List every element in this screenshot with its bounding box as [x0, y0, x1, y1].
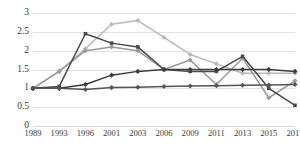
x-axis-tick-label: 2013 — [234, 129, 251, 138]
line-chart: 00.511.522.53 19891993199620012003200620… — [0, 0, 300, 147]
y-axis-tick-label: 1.5 — [17, 65, 29, 75]
data-point-marker — [135, 69, 140, 74]
plot-area — [33, 13, 295, 126]
data-point-marker — [109, 73, 114, 78]
y-axis-tick-label: 0.5 — [17, 102, 29, 112]
data-point-marker — [161, 84, 166, 89]
x-axis-tick-label: 2015 — [260, 129, 277, 138]
x-axis-tick-label: 2011 — [208, 129, 225, 138]
x-axis: 1989199319962001200320062009201120132015… — [33, 129, 295, 145]
data-point-marker — [241, 55, 245, 59]
x-axis-tick-label: 2003 — [129, 129, 146, 138]
data-point-marker — [110, 41, 114, 45]
x-axis-tick-label: 2001 — [103, 129, 120, 138]
x-axis-tick-label: 2017 — [286, 129, 300, 138]
data-point-marker — [83, 82, 88, 87]
y-axis-tick-label: 2.5 — [17, 27, 29, 37]
data-point-marker — [240, 67, 245, 72]
data-point-marker — [188, 84, 193, 89]
series-series-medium-gray — [30, 44, 297, 100]
data-point-marker — [266, 67, 271, 72]
x-axis-tick-label: 1993 — [51, 129, 68, 138]
data-point-marker — [240, 83, 245, 88]
y-axis-tick-label: 1 — [24, 83, 29, 93]
data-point-marker — [109, 85, 114, 90]
y-axis-tick-label: 3 — [24, 8, 29, 18]
data-point-marker — [84, 32, 88, 36]
data-point-marker — [136, 45, 140, 49]
data-point-marker — [293, 103, 297, 107]
series-layer — [33, 13, 295, 126]
x-axis-tick-label: 1989 — [24, 129, 41, 138]
x-axis-tick-label: 2006 — [155, 129, 172, 138]
data-point-marker — [214, 61, 219, 66]
data-point-marker — [109, 44, 114, 49]
data-point-marker — [135, 85, 140, 90]
data-point-marker — [83, 87, 88, 92]
x-axis-tick-label: 2009 — [182, 129, 199, 138]
x-axis-tick-label: 1996 — [77, 129, 94, 138]
y-axis: 00.511.522.53 — [0, 0, 31, 147]
gridline — [33, 126, 295, 127]
y-axis-tick-label: 2 — [24, 46, 29, 56]
